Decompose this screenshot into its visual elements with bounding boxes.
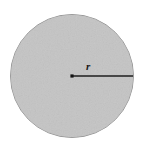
circle-diagram-svg: r xyxy=(0,0,142,147)
radius-label: r xyxy=(86,60,91,72)
center-point-marker xyxy=(70,74,73,77)
figure-canvas: r xyxy=(0,0,142,147)
